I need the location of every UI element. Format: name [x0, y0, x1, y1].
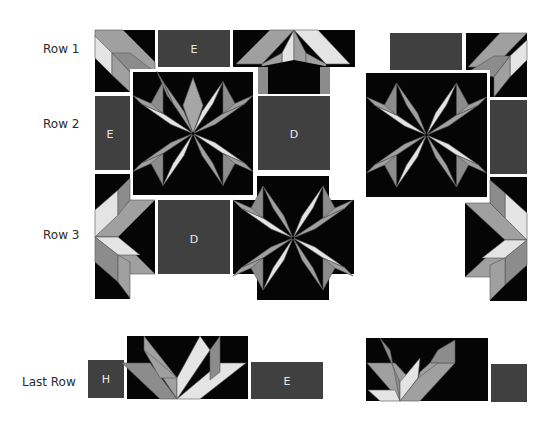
row2-d-block: D	[258, 96, 330, 170]
piece-label-d: D	[290, 128, 298, 141]
piece-label-d: D	[190, 233, 198, 246]
last-row-star-bottom-left	[122, 336, 248, 399]
row3-d-block: D	[158, 200, 230, 274]
last-right-small-block	[491, 364, 527, 402]
piece-label-e: E	[107, 128, 114, 141]
last-e-block: E	[251, 362, 323, 399]
last-row-star-bottom-right	[366, 338, 488, 401]
right-star-block	[363, 70, 490, 200]
piece-label-h: H	[102, 373, 110, 386]
last-h-block: H	[88, 360, 124, 398]
row2-right-side-block	[490, 100, 527, 174]
center-star-block	[130, 69, 256, 198]
quilt-diagram: E E	[0, 0, 556, 426]
piece-label-e: E	[284, 375, 291, 388]
piece-label-e: E	[191, 43, 198, 56]
row1-right-e-block	[390, 33, 462, 70]
row1-e-block: E	[158, 30, 230, 67]
row2-e-block: E	[95, 96, 130, 170]
